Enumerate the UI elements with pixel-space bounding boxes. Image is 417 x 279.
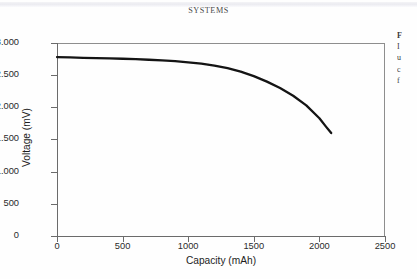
discharge-curve-plot	[0, 0, 390, 279]
figure-page: SYSTEMS 3.000 2.500 2.000 1.500 1.000 50…	[0, 0, 417, 279]
caption-line: f	[397, 75, 417, 86]
discharge-curve-line	[57, 57, 331, 133]
discharge-curve-figure: 3.000 2.500 2.000 1.500 1.000 500 0 0 50…	[0, 0, 390, 279]
figure-caption-column: F I u c f	[397, 30, 417, 90]
caption-line: c	[397, 64, 417, 75]
caption-line: u	[397, 52, 417, 63]
caption-line: F	[397, 30, 417, 41]
caption-line: I	[397, 41, 417, 52]
